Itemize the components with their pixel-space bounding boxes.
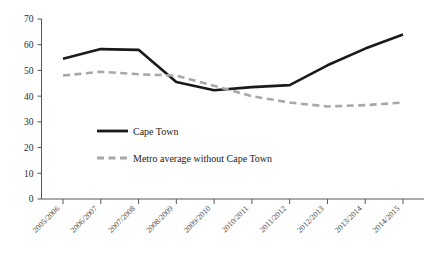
x-tick-label: 2012/2013	[295, 204, 326, 235]
series-line-1	[63, 34, 403, 90]
legend-label-1: Cape Town	[133, 126, 179, 137]
x-tick-label: 2011/2012	[258, 204, 288, 234]
x-tick-label: 2008/2009	[144, 204, 175, 235]
legend-label-2: Metro average without Cape Town	[133, 153, 272, 164]
chart-plot-area: 010203040506070 2005/20062006/20072007/2…	[0, 0, 433, 255]
x-axis-tick-labels: 2005/20062006/20072007/20082008/20092009…	[31, 204, 402, 235]
y-tick-label: 10	[24, 169, 34, 179]
y-axis-tick-labels: 010203040506070	[24, 14, 34, 204]
y-tick-label: 60	[24, 40, 34, 50]
x-tick-label: 2009/2010	[182, 204, 213, 235]
x-tick-label: 2006/2007	[69, 204, 100, 235]
y-tick-label: 70	[24, 14, 34, 24]
data-series-group	[63, 34, 403, 106]
y-tick-label: 0	[29, 194, 34, 204]
x-tick-label: 2014/2015	[371, 204, 402, 235]
line-chart: 010203040506070 2005/20062006/20072007/2…	[0, 0, 433, 255]
x-tick-label: 2005/2006	[31, 204, 62, 235]
y-tick-label: 40	[24, 92, 34, 102]
y-tick-label: 50	[24, 66, 34, 76]
y-tick-label: 30	[24, 117, 34, 127]
chart-legend: Cape TownMetro average without Cape Town	[97, 126, 272, 164]
x-tick-label: 2007/2008	[106, 204, 137, 235]
x-axis-ticks	[63, 199, 403, 204]
y-tick-label: 20	[24, 143, 34, 153]
x-tick-label: 2013/2014	[333, 204, 364, 235]
y-axis-ticks	[38, 19, 42, 199]
x-tick-label: 2010/2011	[220, 204, 250, 234]
